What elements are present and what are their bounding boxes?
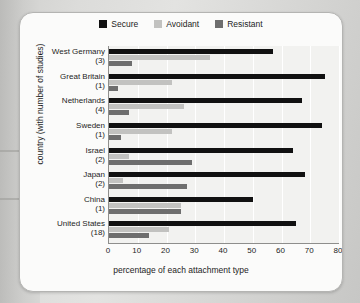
bar-group <box>109 122 339 145</box>
y-axis-label: United States(18) <box>57 219 105 237</box>
bar-group <box>109 220 339 243</box>
x-tick-label: 70 <box>305 246 314 255</box>
bar-avoidant <box>109 80 172 85</box>
chart-legend: SecureAvoidantResistant <box>20 19 342 29</box>
x-tick-label: 0 <box>106 246 110 255</box>
legend-swatch-secure <box>99 20 107 28</box>
x-axis-tick-labels: 01020304050607080 <box>108 246 339 260</box>
study-count: (4) <box>62 105 105 114</box>
bar-secure <box>109 123 322 128</box>
study-count: (2) <box>83 179 105 188</box>
x-tick-label: 30 <box>190 246 199 255</box>
x-tick-label: 60 <box>276 246 285 255</box>
bar-secure <box>109 221 296 226</box>
x-tick-label: 80 <box>334 246 343 255</box>
bar-secure <box>109 74 325 79</box>
bar-secure <box>109 49 273 54</box>
legend-item: Avoidant <box>154 19 199 29</box>
x-tick-label: 20 <box>161 246 170 255</box>
y-axis-label: Japan(2) <box>83 170 105 188</box>
bar-avoidant <box>109 129 172 134</box>
country-name: Japan <box>83 170 105 179</box>
x-tick-label: 50 <box>247 246 256 255</box>
bar-avoidant <box>109 227 169 232</box>
bar-avoidant <box>109 154 129 159</box>
bar-group <box>109 97 339 120</box>
y-axis-label: Sweden(1) <box>76 121 105 139</box>
bar-resistant <box>109 86 118 91</box>
bar-resistant <box>109 61 132 66</box>
country-name: Netherlands <box>62 96 105 105</box>
legend-swatch-avoidant <box>154 20 162 28</box>
legend-item: Resistant <box>215 19 262 29</box>
plot-area <box>108 46 339 243</box>
bar-secure <box>109 172 305 177</box>
bar-avoidant <box>109 55 210 60</box>
bar-resistant <box>109 209 181 214</box>
bar-secure <box>109 197 253 202</box>
bar-avoidant <box>109 178 123 183</box>
y-axis-label: West Germany(3) <box>52 47 105 65</box>
study-count: (2) <box>85 155 105 164</box>
study-count: (1) <box>76 130 105 139</box>
gridline <box>339 46 340 243</box>
x-axis-line <box>108 243 339 244</box>
chart-card: SecureAvoidantResistant West Germany(3)G… <box>19 12 343 292</box>
country-name: West Germany <box>52 47 105 56</box>
y-axis-label: Netherlands(4) <box>62 96 105 114</box>
country-name: Israel <box>85 146 105 155</box>
y-axis-label: Great Britain(1) <box>60 72 105 90</box>
country-name: Sweden <box>76 121 105 130</box>
country-name: United States <box>57 219 105 228</box>
bar-group <box>109 147 339 170</box>
x-tick-label: 10 <box>132 246 141 255</box>
bar-resistant <box>109 135 121 140</box>
y-axis-labels: West Germany(3)Great Britain(1)Netherlan… <box>20 46 105 243</box>
bar-group <box>109 73 339 96</box>
legend-item: Secure <box>99 19 138 29</box>
x-tick-label: 40 <box>219 246 228 255</box>
bar-group <box>109 48 339 71</box>
bar-resistant <box>109 233 149 238</box>
y-axis-label: Israel(2) <box>85 146 105 164</box>
bar-resistant <box>109 110 129 115</box>
bar-group <box>109 196 339 219</box>
y-axis-title: country (with number of studies) <box>35 24 45 184</box>
bar-secure <box>109 148 293 153</box>
country-name: Great Britain <box>60 72 105 81</box>
legend-item-label: Secure <box>111 19 138 29</box>
bar-avoidant <box>109 104 184 109</box>
legend-swatch-resistant <box>215 20 223 28</box>
country-name: China <box>84 195 105 204</box>
study-count: (1) <box>84 204 105 213</box>
legend-item-label: Resistant <box>227 19 262 29</box>
x-axis-title: percentage of each attachment type <box>20 265 342 275</box>
study-count: (3) <box>52 56 105 65</box>
legend-item-label: Avoidant <box>166 19 199 29</box>
study-count: (18) <box>57 228 105 237</box>
bar-resistant <box>109 184 187 189</box>
study-count: (1) <box>60 81 105 90</box>
bar-secure <box>109 98 302 103</box>
bar-resistant <box>109 160 192 165</box>
bar-avoidant <box>109 203 181 208</box>
bar-group <box>109 171 339 194</box>
y-axis-label: China(1) <box>84 195 105 213</box>
